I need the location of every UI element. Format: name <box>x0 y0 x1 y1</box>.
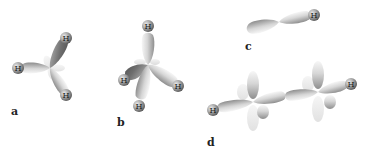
p-lobe <box>257 105 269 119</box>
svg-text:H: H <box>63 34 70 43</box>
hydrogen-atom: H <box>12 62 24 74</box>
svg-text:H: H <box>175 82 182 91</box>
p-lobe <box>312 61 324 89</box>
panel-label-b: b <box>117 116 125 129</box>
svg-text:H: H <box>311 11 318 20</box>
panel-b: H H H H b <box>117 20 184 129</box>
panel-d: H H d <box>207 61 357 149</box>
hybrid-lobe <box>245 16 280 36</box>
hydrogen-atom: H <box>308 9 320 21</box>
small-back-lobe <box>134 59 146 65</box>
p-lobe <box>324 95 336 109</box>
hybrid-lobe <box>278 9 312 27</box>
orbital-diagram: H H H a H H H H b H c <box>0 0 370 157</box>
panel-c: H c <box>245 9 320 53</box>
hydrogen-atom: H <box>133 100 145 112</box>
svg-text:H: H <box>15 64 22 73</box>
panel-label-c: c <box>245 40 252 53</box>
panel-label-a: a <box>11 105 18 118</box>
panel-label-d: d <box>207 136 215 149</box>
svg-text:H: H <box>145 22 152 31</box>
hydrogen-atom: H <box>207 104 219 116</box>
hydrogen-atom: H <box>172 80 184 92</box>
svg-text:H: H <box>210 106 217 115</box>
p-lobe <box>312 96 324 122</box>
svg-text:H: H <box>121 76 128 85</box>
svg-text:H: H <box>63 91 70 100</box>
hydrogen-atom: H <box>142 20 154 32</box>
svg-text:H: H <box>348 80 355 89</box>
small-back-lobe <box>150 59 160 65</box>
panel-a: H H H a <box>11 32 72 118</box>
hydrogen-atom: H <box>60 89 72 101</box>
hydrogen-atom: H <box>345 78 357 90</box>
hydrogen-atom: H <box>118 74 130 86</box>
svg-text:H: H <box>136 102 143 111</box>
hybrid-lobe <box>284 87 318 102</box>
p-lobe <box>247 105 259 131</box>
p-lobe <box>247 71 259 99</box>
hydrogen-atom: H <box>60 32 72 44</box>
